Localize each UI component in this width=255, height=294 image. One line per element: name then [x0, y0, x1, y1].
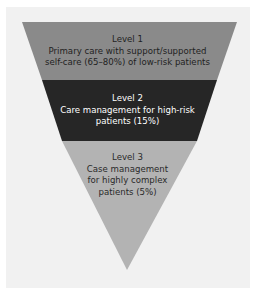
level-3-label: Level 3 Case management for highly compl… — [0, 152, 255, 198]
level-1-label: Level 1 Primary care with support/suppor… — [0, 34, 255, 69]
level-1-title: Level 1 — [0, 34, 255, 46]
level-1-line-1: Primary care with support/supported — [0, 46, 255, 58]
level-2-line-1: Care management for high-risk — [0, 105, 255, 117]
level-3-title: Level 3 — [0, 152, 255, 164]
level-2-title: Level 2 — [0, 93, 255, 105]
level-3-line-1: Case management — [0, 164, 255, 176]
level-3-line-3: patients (5%) — [0, 187, 255, 199]
level-2-label: Level 2 Care management for high-risk pa… — [0, 93, 255, 128]
level-2-line-2: patients (15%) — [0, 116, 255, 128]
level-1-line-2: self-care (65–80%) of low-risk patients — [0, 57, 255, 69]
level-3-line-2: for highly complex — [0, 175, 255, 187]
